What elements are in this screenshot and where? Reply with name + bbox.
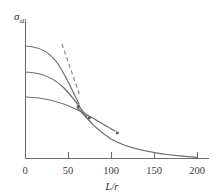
x-tick-label-50: 50 [63, 165, 74, 176]
x-tick-label-200: 200 [189, 165, 205, 176]
short-column-curve-low-yield [26, 97, 116, 131]
figure-container: σall 0 50 100 150 200 L/r [0, 0, 220, 193]
x-tick-label-150: 150 [146, 165, 162, 176]
tangent-point-upper [77, 105, 80, 108]
euler-buckling-envelope-curve [77, 107, 197, 157]
x-tick-label-100: 100 [103, 165, 119, 176]
tangent-point-middle [88, 117, 91, 120]
tangent-point-lower [116, 132, 119, 135]
x-tick-label-0: 0 [22, 165, 27, 176]
y-axis-label: σall [14, 10, 26, 25]
x-axis-title: L/r [105, 181, 120, 192]
allowable-stress-chart: σall 0 50 100 150 200 L/r [0, 0, 220, 193]
